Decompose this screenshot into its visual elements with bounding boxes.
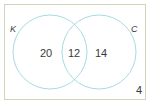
only-k-count: 20 xyxy=(40,48,52,59)
set-k-label: K xyxy=(10,24,16,34)
neither-count: 4 xyxy=(136,85,142,96)
set-c-label: C xyxy=(131,24,138,34)
only-c-count: 14 xyxy=(95,48,107,59)
intersection-count: 12 xyxy=(68,48,80,59)
